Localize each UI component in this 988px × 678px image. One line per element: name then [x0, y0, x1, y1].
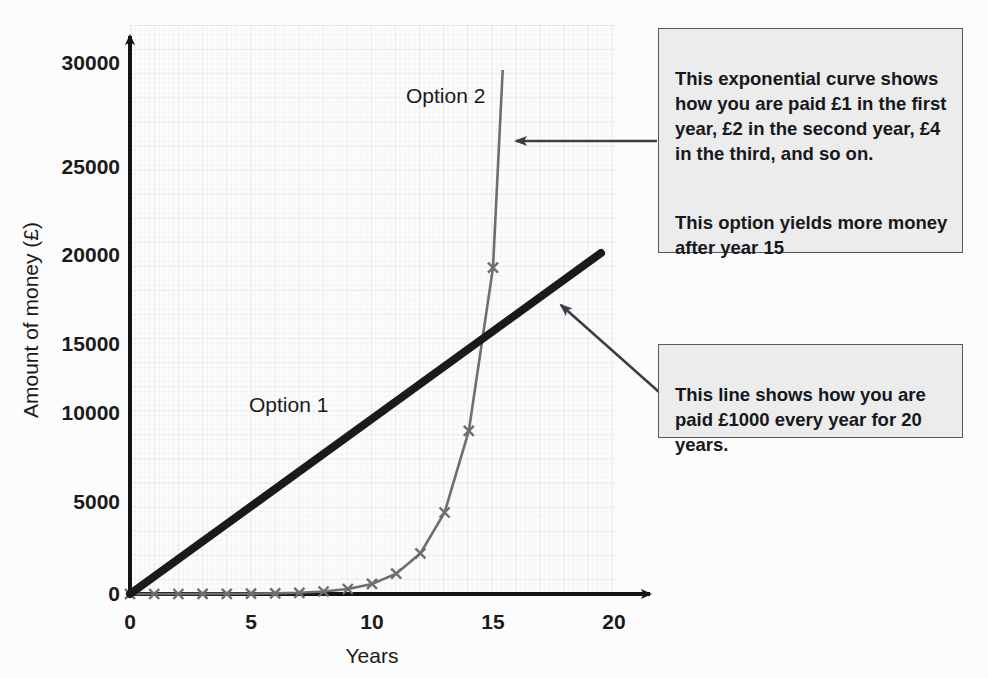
- callout-box-exponential: This exponential curve shows how you are…: [658, 28, 963, 253]
- x-tick-label-15: 15: [481, 610, 505, 633]
- x-tick-labels: 0 5 10 15 20: [124, 610, 626, 633]
- x-axis-title: Years: [346, 644, 399, 667]
- y-tick-label-20000: 20000: [62, 243, 120, 266]
- callout-2-paragraph-1: This line shows how you are paid £1000 e…: [675, 382, 948, 457]
- x-tick-label-10: 10: [360, 610, 383, 633]
- callout-1-paragraph-2: This option yields more money after year…: [675, 210, 948, 260]
- y-tick-labels: 0 5000 10000 15000 20000 25000 30000: [62, 51, 120, 605]
- x-tick-label-5: 5: [245, 610, 257, 633]
- y-tick-label-10000: 10000: [62, 401, 120, 424]
- x-tick-label-20: 20: [602, 610, 625, 633]
- y-tick-label-5000: 5000: [73, 490, 120, 513]
- y-tick-label-0: 0: [108, 582, 120, 605]
- callout-2-arrow: [561, 305, 659, 392]
- option-2-markers: [125, 263, 498, 599]
- callout-1-paragraph-1: This exponential curve shows how you are…: [675, 66, 948, 166]
- y-tick-label-30000: 30000: [62, 51, 120, 74]
- y-axis-title: Amount of money (£): [19, 222, 42, 418]
- y-tick-label-15000: 15000: [62, 332, 120, 355]
- option-1-label: Option 1: [249, 393, 328, 416]
- option-2-label: Option 2: [406, 84, 485, 107]
- chart-canvas: 0 5000 10000 15000 20000 25000 30000 0 5…: [0, 0, 988, 678]
- x-tick-label-0: 0: [124, 610, 136, 633]
- option-1-line: [130, 253, 601, 594]
- series-option-2: [125, 70, 503, 599]
- y-tick-label-25000: 25000: [62, 155, 120, 178]
- callout-box-linear: This line shows how you are paid £1000 e…: [658, 344, 963, 438]
